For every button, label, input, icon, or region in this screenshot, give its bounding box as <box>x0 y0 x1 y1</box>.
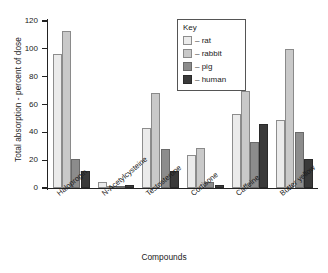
legend-item-human: – human <box>183 73 245 86</box>
bar <box>53 54 62 188</box>
y-axis-tick-label: 60 <box>12 100 38 109</box>
y-axis-tick-label: 0 <box>12 183 38 192</box>
y-axis-tick-label: 20 <box>12 155 38 164</box>
bar <box>151 93 160 188</box>
legend-label: – pig <box>195 62 212 71</box>
legend-title: Key <box>183 23 245 32</box>
bar <box>62 31 71 188</box>
bar-group <box>142 21 179 188</box>
legend-swatch-icon <box>183 62 192 71</box>
legend-item-pig: – pig <box>183 60 245 73</box>
y-axis-tick-label: 100 <box>12 44 38 53</box>
bar <box>125 185 134 188</box>
legend-swatch-icon <box>183 75 192 84</box>
bar-group <box>53 21 90 188</box>
bar <box>241 91 250 188</box>
bar <box>285 49 294 188</box>
legend-swatch-icon <box>183 36 192 45</box>
bar-group <box>276 21 313 188</box>
x-axis-line <box>47 188 318 189</box>
bar-group <box>98 21 135 188</box>
y-axis-tick-label: 120 <box>12 16 38 25</box>
y-axis-tick-label: 40 <box>12 127 38 136</box>
legend-label: – human <box>195 75 226 84</box>
legend-entries: – rat– rabbit– pig– human <box>183 34 245 86</box>
legend-label: – rabbit <box>195 49 222 58</box>
bar <box>215 185 224 188</box>
legend-item-rabbit: – rabbit <box>183 47 245 60</box>
legend-label: – rat <box>195 36 211 45</box>
bar <box>187 155 196 188</box>
legend-swatch-icon <box>183 49 192 58</box>
legend-item-rat: – rat <box>183 34 245 47</box>
bar <box>276 120 285 188</box>
x-axis-title: Compounds <box>0 252 328 262</box>
bar <box>232 114 241 188</box>
legend: Key – rat– rabbit– pig– human <box>177 19 246 91</box>
bar-chart: Total absorption - percent of dose Compo… <box>0 0 328 273</box>
y-axis-tick-label: 80 <box>12 72 38 81</box>
